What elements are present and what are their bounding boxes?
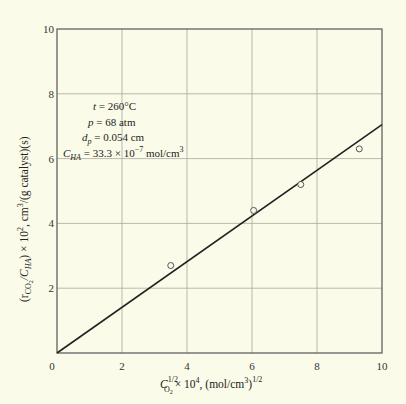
y-tick-labels: 246810 (43, 23, 55, 294)
plot-frame (57, 29, 382, 353)
x-tick-label: 8 (314, 360, 320, 372)
data-point (251, 207, 257, 213)
y-tick-label: 4 (49, 217, 55, 229)
x-tick-label: 0 (49, 360, 55, 372)
chart: 0246810 246810 t = 260°C p = 68 atm dp =… (0, 0, 406, 404)
annotation-dp: dp = 0.054 cm (82, 131, 145, 146)
data-point (168, 263, 174, 269)
annotation-block: t = 260°C p = 68 atm dp = 0.054 cm CHA =… (63, 100, 184, 162)
y-tick-label: 6 (49, 153, 55, 165)
y-tick-label: 10 (43, 23, 55, 35)
data-point (356, 146, 362, 152)
annotation-t: t = 260°C (93, 100, 136, 112)
x-tick-labels: 0246810 (49, 360, 388, 372)
y-axis-label: (rCO2/CHA) × 102, cm3/(g catalyst)(s) (16, 136, 34, 302)
y-tick-label: 8 (49, 88, 55, 100)
x-tick-label: 2 (119, 360, 125, 372)
y-tick-label: 2 (49, 282, 55, 294)
x-tick-label: 6 (249, 360, 255, 372)
x-tick-label: 4 (184, 360, 190, 372)
annotation-p: p = 68 atm (87, 116, 136, 128)
data-point (298, 182, 304, 188)
x-tick-label: 10 (377, 360, 389, 372)
x-axis-label: C1/2O2× 104, (mol/cm3)1/2 (160, 375, 262, 395)
annotation-cha: CHA = 33.3 × 10−7 mol/cm3 (63, 145, 184, 162)
grid (57, 29, 382, 353)
